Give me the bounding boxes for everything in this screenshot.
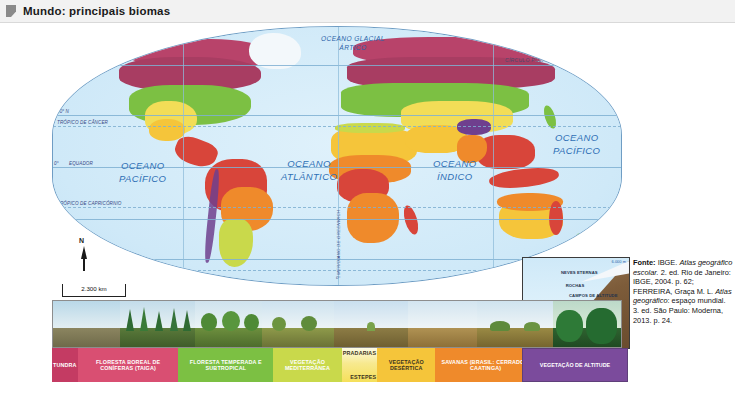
legend-label: VEGETAÇÃO DESÉRTICA — [378, 359, 434, 372]
photo-ground — [408, 328, 477, 347]
tropic-of-cancer-line — [53, 126, 621, 127]
conifer-icon — [155, 311, 163, 331]
landmass-africa-med — [335, 123, 405, 133]
legend-label: FLORESTA TEMPERADA E SUBTROPICAL — [179, 359, 272, 372]
longitude-line-east — [493, 27, 494, 285]
label-equator: EQUADOR — [69, 161, 93, 166]
ocean-label-pacific-west: OCEANOPACÍFICO — [119, 159, 166, 185]
conifer-icon — [170, 308, 178, 331]
legend-item-floresta-temperada[interactable]: FLORESTA TEMPERADA E SUBTROPICAL — [178, 348, 273, 382]
page-root: Mundo: principais biomas — [0, 0, 735, 396]
label-tropic-cancer: TRÓPICO DE CÂNCER — [57, 120, 108, 125]
landmass-africa-south — [347, 193, 399, 243]
conifer-icon — [126, 309, 134, 331]
altitude-band-rochas: ROCHAS — [557, 284, 593, 289]
source-line3: FERREIRA, Graça M. L. — [633, 287, 715, 296]
legend-item-floresta-boreal[interactable]: FLORESTA BOREAL DE CONÍFERAS (TAIGA) — [78, 348, 179, 382]
photo-ground — [477, 328, 553, 347]
label-tropic-capricorn: TRÓPICO DE CAPRICÓRNIO — [57, 201, 121, 206]
photo-tundra — [53, 301, 120, 347]
latitude-line-30n — [53, 115, 621, 116]
photo-pradarias-estepes — [334, 301, 407, 347]
label-30s: 30° S — [57, 213, 69, 218]
source-prefix: Fonte: — [633, 258, 656, 267]
photo-sky — [53, 301, 120, 328]
legend-label: SAVANAS (BRASIL: CERRADO E CAATINGA) — [436, 359, 534, 372]
photo-floresta-temperada — [195, 301, 262, 347]
photo-floresta-tropical — [553, 301, 621, 347]
page-title-bar: Mundo: principais biomas — [0, 0, 735, 23]
altitude-band-campos-de-altitude: CAMPOS DE ALTITUDE — [569, 294, 611, 299]
bookmark-icon — [6, 5, 16, 17]
legend-label: VEGETAÇÃO MEDITERRÂNEA — [274, 359, 341, 372]
broadleaf-icon — [201, 313, 217, 331]
compass-rose-icon: N — [76, 238, 90, 274]
photo-sky — [408, 301, 477, 328]
legend-label: FLORESTA BOREAL DE CONÍFERAS (TAIGA) — [79, 359, 178, 372]
rainforest-canopy-icon — [556, 310, 583, 342]
altitude-max-value: 6.000 m — [612, 259, 626, 264]
ocean-label-pacific-east: OCEANOPACÍFICO — [553, 131, 600, 157]
legend-label: VEGETAÇÃO DE ALTITUDE — [540, 362, 610, 368]
photo-sky — [477, 301, 553, 328]
landmass-greenland — [249, 33, 301, 69]
legend-item-vegetacao-mediterranea[interactable]: VEGETAÇÃO MEDITERRÂNEA — [273, 348, 342, 382]
map-scale-bar: 2.300 km — [62, 284, 126, 297]
conifer-icon — [140, 307, 148, 331]
photo-savanas — [477, 301, 553, 347]
latitude-line-60n — [53, 65, 621, 66]
rainforest-canopy-icon — [586, 308, 617, 344]
label-30n: 30° N — [57, 109, 69, 114]
map-scale-label: 2.300 km — [63, 285, 125, 292]
photo-ground — [53, 328, 120, 347]
page-title: Mundo: principais biomas — [23, 5, 170, 17]
ocean-label-indian: OCEANOÍNDICO — [433, 157, 477, 183]
legend-label: TUNDRA — [53, 362, 77, 368]
compass-north-label: N — [79, 237, 84, 244]
landmass-tibet-altitude — [457, 119, 491, 135]
altitude-band-neves-eternas: NEVES ETERNAS — [561, 271, 597, 276]
compass-stem-icon — [83, 258, 85, 271]
source-citation: Fonte: IBGE. Atlas geográfico escolar. 2… — [633, 258, 733, 325]
label-antarctic-circle: CÍRCULO POLAR ANTÁRTICO — [81, 264, 148, 269]
photo-floresta-boreal — [120, 301, 195, 347]
legend-item-vegetacao-de-altitude[interactable]: VEGETAÇÃO DE ALTITUDE — [522, 348, 628, 382]
greenwich-zero-label: 0° — [336, 275, 340, 280]
greenwich-meridian-label: MERIDIANO DE GREENWICH — [336, 210, 341, 275]
label-60n: 60° N — [67, 59, 79, 64]
tropic-of-capricorn-line — [53, 207, 621, 208]
ocean-label-arctic: OCEANO GLACIALÁRTICO — [321, 35, 385, 52]
source-line1: IBGE. — [656, 258, 680, 267]
photo-vegetacao-mediterranea — [262, 301, 334, 347]
savanna-tree-icon — [490, 321, 510, 331]
photo-ground — [262, 328, 334, 347]
broadleaf-icon — [244, 314, 259, 331]
longitude-line-west — [183, 27, 184, 285]
legend-item-pradarias-estepes[interactable]: PRADARIAS ESTEPES — [342, 348, 377, 382]
legend-label: PRADARIAS — [343, 350, 376, 356]
label-0-equator-deg: 0° — [54, 161, 59, 166]
conifer-icon — [183, 310, 191, 331]
savanna-tree-icon — [524, 322, 540, 331]
arctic-circle-label: CÍRCULO POLAR ÁRTICO — [505, 57, 572, 63]
biome-photo-strip — [52, 300, 622, 348]
photo-vegetacao-desertica — [408, 301, 477, 347]
legend-label-secondary: ESTEPES — [350, 374, 376, 380]
legend-item-tundra[interactable]: TUNDRA — [52, 348, 78, 382]
legend-item-vegetacao-desertica[interactable]: VEGETAÇÃO DESÉRTICA — [377, 348, 435, 382]
map-canvas: OCEANO GLACIALÁRTICO OCEANOPACÍFICO OCEA… — [52, 26, 622, 286]
grass-icon — [367, 322, 375, 331]
ocean-label-atlantic: OCEANOATLÂNTICO — [281, 157, 337, 183]
legend-item-savanas[interactable]: SAVANAS (BRASIL: CERRADO E CAATINGA) — [435, 348, 535, 382]
